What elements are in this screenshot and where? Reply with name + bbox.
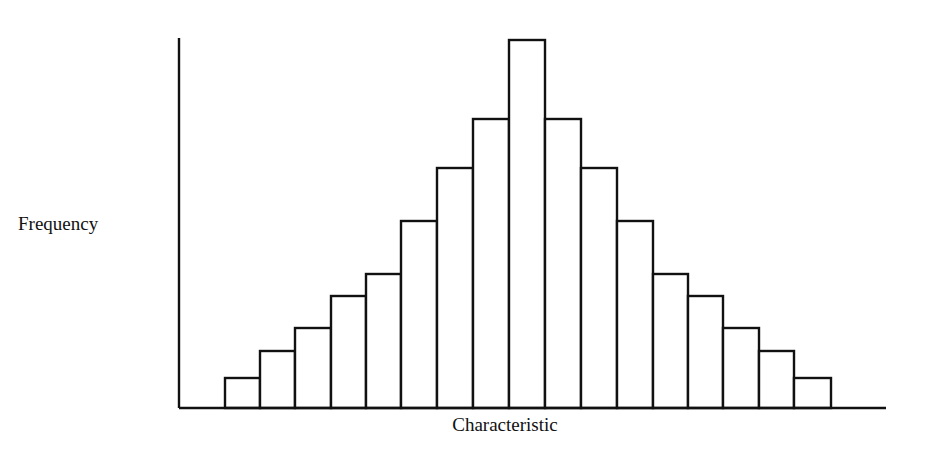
x-axis-label: Characteristic (452, 414, 558, 435)
histogram-bar (688, 296, 723, 408)
histogram-bar (366, 274, 401, 408)
histogram-bar (723, 328, 759, 408)
histogram-chart: Frequency Characteristic (0, 0, 934, 468)
histogram-bar (509, 40, 545, 408)
histogram-bar (260, 351, 295, 408)
histogram-bar (653, 274, 688, 408)
histogram-bar (473, 119, 509, 408)
histogram-bar (759, 351, 794, 408)
histogram-bar (437, 168, 473, 408)
histogram-bar (295, 328, 331, 408)
histogram-bar (794, 378, 831, 408)
histogram-bar (401, 221, 437, 408)
histogram-bar (225, 378, 260, 408)
y-axis-label: Frequency (18, 213, 99, 234)
histogram-bar (545, 119, 581, 408)
histogram-bar (331, 296, 366, 408)
histogram-bar (617, 221, 653, 408)
histogram-bar (581, 168, 617, 408)
histogram-bars (225, 40, 831, 408)
